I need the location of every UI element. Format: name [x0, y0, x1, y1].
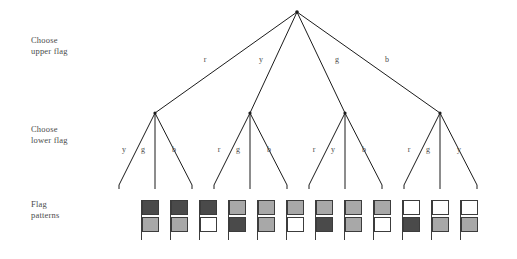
flag-upper-band-3: [200, 200, 217, 215]
flag-upper-band-2: [171, 200, 188, 215]
level1-edge-group: [155, 12, 440, 113]
flag-lower-band-4: [229, 217, 246, 232]
edge-label-level2-b-r: r: [408, 145, 411, 154]
branch-level1-r: [155, 12, 297, 113]
flag-lower-band-3: [200, 217, 217, 232]
edge-label-level1-r: r: [204, 55, 207, 64]
node-root: [295, 10, 299, 14]
edge-label-level2-y-r: r: [218, 145, 221, 154]
node-level1-r: [153, 111, 156, 114]
flag-upper-band-9: [374, 200, 391, 215]
edge-label-level2-g-y: y: [331, 145, 335, 154]
edge-label-level2-b-y: y: [457, 145, 461, 154]
tree-node-group: [153, 10, 441, 114]
node-level1-y: [248, 111, 251, 114]
node-level1-b: [438, 111, 441, 114]
flag-upper-band-5: [258, 200, 275, 215]
edge-label-level2-b-g: g: [426, 145, 430, 154]
flag-lower-band-7: [316, 217, 333, 232]
edge-label-level2-r-g: g: [141, 145, 145, 154]
edge-label-level1-b: b: [385, 55, 389, 64]
flag-lower-band-6: [287, 217, 304, 232]
flag-lower-band-8: [345, 217, 362, 232]
flag-upper-band-10: [403, 200, 420, 215]
edge-label-level2-r-b: b: [172, 145, 176, 154]
flag-lower-band-2: [171, 217, 188, 232]
edge-label-group: rygbygbrgbrybrgy: [122, 55, 461, 154]
node-level1-g: [343, 111, 346, 114]
edge-label-level2-g-r: r: [313, 145, 316, 154]
flag-lower-band-9: [374, 217, 391, 232]
flag-upper-band-4: [229, 200, 246, 215]
flag-upper-band-8: [345, 200, 362, 215]
flag-stem-group: [119, 185, 477, 189]
edge-label-level1-y: y: [259, 55, 263, 64]
flag-upper-band-11: [432, 200, 449, 215]
flag-lower-band-5: [258, 217, 275, 232]
flag-upper-band-1: [142, 200, 159, 215]
flag-upper-band-7: [316, 200, 333, 215]
flag-upper-band-12: [461, 200, 478, 215]
flag-upper-band-6: [287, 200, 304, 215]
edge-label-level2-y-b: b: [267, 145, 271, 154]
branch-level1-b: [297, 12, 440, 113]
edge-label-level2-y-g: g: [236, 145, 240, 154]
edge-label-level2-g-b: b: [362, 145, 366, 154]
flag-lower-band-1: [142, 217, 159, 232]
branch-level1-y: [250, 12, 297, 113]
flag-lower-band-12: [461, 217, 478, 232]
flag-lower-band-11: [432, 217, 449, 232]
edge-label-level1-g: g: [335, 55, 339, 64]
diagram-canvas: Choose upper flag Choose lower flag Flag…: [0, 0, 517, 259]
flag-lower-band-10: [403, 217, 420, 232]
edge-label-level2-r-y: y: [122, 145, 126, 154]
